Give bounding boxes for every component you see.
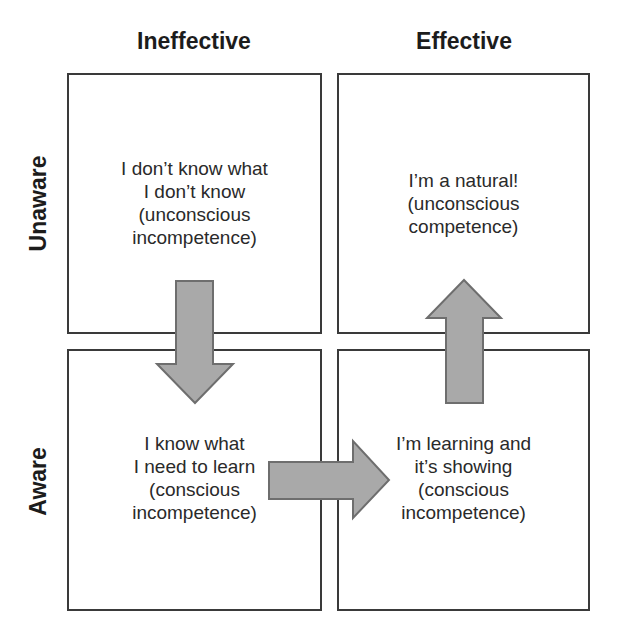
arrow-up-icon bbox=[427, 280, 501, 403]
arrows-layer bbox=[0, 0, 620, 640]
arrow-down-icon bbox=[157, 281, 233, 403]
arrow-right-icon bbox=[269, 441, 389, 518]
